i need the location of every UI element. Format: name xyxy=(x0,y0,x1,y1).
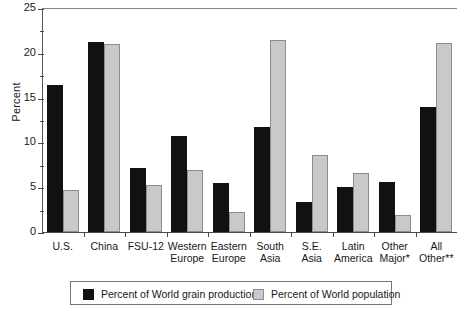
x-axis-category-label-line: Europe xyxy=(167,252,209,264)
x-axis-tick-mark xyxy=(374,232,375,237)
x-axis-category-label: OtherMajor* xyxy=(374,240,416,264)
x-axis-category-label-line: All xyxy=(416,240,458,252)
x-axis-tick-mark xyxy=(125,232,126,237)
x-axis-category-label-line: FSU-12 xyxy=(125,240,167,252)
x-axis-category-label-line: Asia xyxy=(250,252,292,264)
x-axis-category-label-line: Major* xyxy=(374,252,416,264)
bar-grain-production xyxy=(379,182,395,232)
bar-group xyxy=(420,8,452,232)
legend-swatch-grain-production xyxy=(83,289,94,300)
y-axis-minor-tick-mark xyxy=(40,31,44,32)
y-axis-minor-tick-mark xyxy=(40,166,44,167)
legend-label: Percent of World population xyxy=(271,288,400,300)
y-axis-tick-mark xyxy=(38,99,44,100)
legend-label: Percent of World grain production xyxy=(101,288,257,300)
x-axis-category-label: WesternEurope xyxy=(167,240,209,264)
legend-entry: Percent of World grain production xyxy=(83,286,257,302)
bar-chart-figure: Percent 0510152025 U.S.ChinaFSU-12Wester… xyxy=(0,0,462,316)
bar-grain-production xyxy=(337,187,353,232)
y-axis-tick-label: 20 xyxy=(14,47,36,58)
y-axis-tick-mark xyxy=(38,9,44,10)
bar-population xyxy=(146,185,162,232)
x-axis-category-label: SouthAsia xyxy=(250,240,292,264)
x-axis-tick-mark xyxy=(208,232,209,237)
bar-grain-production xyxy=(47,85,63,232)
y-axis-tick-labels: 0510152025 xyxy=(10,0,36,316)
x-axis-category-label-line: Latin xyxy=(333,240,375,252)
y-axis-minor-tick-mark xyxy=(40,76,44,77)
bar-group xyxy=(88,8,120,232)
y-axis-tick-label: 0 xyxy=(14,226,36,237)
y-axis-tick-label: 25 xyxy=(14,2,36,13)
x-axis-category-label-line: South xyxy=(250,240,292,252)
x-axis-category-label-line: Europe xyxy=(208,252,250,264)
bar-group xyxy=(337,8,369,232)
bar-population xyxy=(395,215,411,232)
bar-group xyxy=(213,8,245,232)
bar-group xyxy=(130,8,162,232)
bar-population xyxy=(187,170,203,232)
x-axis-tick-mark xyxy=(416,232,417,237)
bar-population xyxy=(436,43,452,232)
x-axis-category-label: China xyxy=(84,240,126,252)
bar-group xyxy=(254,8,286,232)
x-axis-category-label-line: America xyxy=(333,252,375,264)
x-axis-tick-mark xyxy=(291,232,292,237)
chart-legend: Percent of World grain productionPercent… xyxy=(70,281,392,305)
x-axis-category-label: AllOther** xyxy=(416,240,458,264)
y-axis-tick-mark xyxy=(38,54,44,55)
bar-group xyxy=(379,8,411,232)
bar-grain-production xyxy=(420,107,436,232)
x-axis-tick-mark xyxy=(167,232,168,237)
legend-entry: Percent of World population xyxy=(253,286,400,302)
y-axis-tick-mark xyxy=(38,188,44,189)
x-axis-category-label: FSU-12 xyxy=(125,240,167,252)
bar-group xyxy=(296,8,328,232)
x-axis-tick-mark xyxy=(250,232,251,237)
x-axis-category-label-line: S.E. xyxy=(291,240,333,252)
x-axis-category-label-line: Other xyxy=(374,240,416,252)
bar-population xyxy=(63,190,79,232)
x-axis-tick-mark xyxy=(333,232,334,237)
bar-grain-production xyxy=(130,168,146,232)
x-axis-category-label-line: U.S. xyxy=(42,240,84,252)
bar-population xyxy=(312,155,328,232)
bar-population xyxy=(104,44,120,232)
bar-grain-production xyxy=(296,202,312,232)
bar-population xyxy=(353,173,369,232)
x-axis-category-label-line: Western xyxy=(167,240,209,252)
y-axis-tick-label: 15 xyxy=(14,92,36,103)
y-axis-tick-mark xyxy=(38,233,44,234)
x-axis-category-label-line: Eastern xyxy=(208,240,250,252)
bar-grain-production xyxy=(171,136,187,232)
x-axis-tick-mark xyxy=(84,232,85,237)
y-axis-tick-mark xyxy=(38,143,44,144)
x-axis-category-label: EasternEurope xyxy=(208,240,250,264)
x-axis-category-label: U.S. xyxy=(42,240,84,252)
y-axis-minor-tick-mark xyxy=(40,211,44,212)
y-axis-minor-tick-mark xyxy=(40,121,44,122)
bar-group xyxy=(47,8,79,232)
bar-group xyxy=(171,8,203,232)
bar-grain-production xyxy=(254,127,270,232)
x-axis-category-label: S.E.Asia xyxy=(291,240,333,264)
x-axis-category-label-line: Other** xyxy=(416,252,458,264)
x-axis-category-label-line: China xyxy=(84,240,126,252)
x-axis-category-label-line: Asia xyxy=(291,252,333,264)
y-axis-tick-label: 10 xyxy=(14,136,36,147)
bar-grain-production xyxy=(213,183,229,232)
legend-swatch-population xyxy=(253,289,264,300)
y-axis-tick-label: 5 xyxy=(14,181,36,192)
bar-population xyxy=(229,212,245,232)
bar-grain-production xyxy=(88,42,104,232)
bar-population xyxy=(270,40,286,232)
x-axis-category-label: LatinAmerica xyxy=(333,240,375,264)
